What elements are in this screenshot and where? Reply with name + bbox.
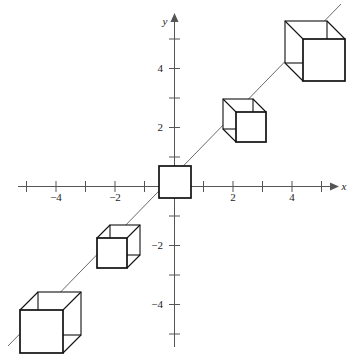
x-tick-label-2: 2: [230, 191, 236, 203]
x-tick-label-4: 4: [289, 191, 295, 203]
coordinate-plot: −4 −2 2 4 x 4 2: [0, 0, 352, 362]
y-tick-label-2: 2: [158, 121, 164, 133]
cube-upper-right: [223, 99, 266, 142]
cube-origin: [159, 166, 191, 198]
figure-canvas: −4 −2 2 4 x 4 2: [0, 0, 352, 362]
y-tick-label--2: −2: [151, 239, 163, 251]
y-tick-label--4: −4: [151, 298, 163, 310]
x-tick-label--4: −4: [50, 191, 62, 203]
x-axis-arrow-icon: [330, 183, 339, 191]
cube-far-lower-left: [20, 292, 81, 353]
y-axis-label: y: [162, 15, 168, 27]
y-axis-arrow-icon: [171, 13, 179, 22]
x-axis-label: x: [341, 180, 347, 192]
x-tick-label--2: −2: [109, 191, 121, 203]
cube-lower-left: [97, 225, 140, 268]
origin-square: [159, 166, 191, 198]
cube-far-upper-right: [285, 21, 345, 81]
y-tick-label-4: 4: [158, 62, 164, 74]
